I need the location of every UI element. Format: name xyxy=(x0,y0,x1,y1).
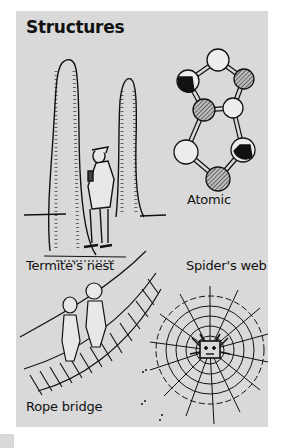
hikers-figures xyxy=(62,283,106,361)
spider-body xyxy=(200,341,220,358)
molecule-illustration xyxy=(174,49,255,191)
termite-mound-illustration xyxy=(24,60,166,261)
structures-panel: Structures xyxy=(16,11,268,427)
spider-web-label: Spider's web xyxy=(186,258,267,273)
person-figure xyxy=(84,147,114,247)
illustration-canvas xyxy=(16,11,268,427)
spider-web-illustration xyxy=(141,286,268,424)
page-corner-tab xyxy=(0,434,14,448)
rope-bridge-label: Rope bridge xyxy=(26,399,102,414)
atomic-label: Atomic xyxy=(187,192,231,207)
termite-nest-label: Termite's nest xyxy=(26,258,114,273)
